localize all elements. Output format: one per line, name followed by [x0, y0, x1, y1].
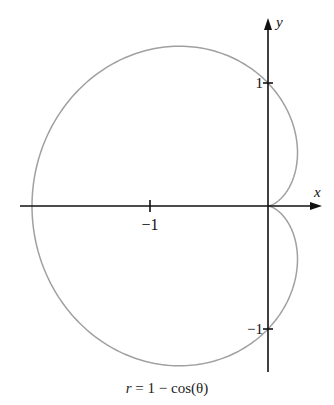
caption-rhs: 1 − cos(θ): [148, 380, 209, 396]
x-tick-label: −1: [141, 216, 158, 233]
x-axis-arrow-icon: [310, 202, 322, 210]
caption-equals: =: [135, 380, 143, 396]
y-tick-label: −1: [247, 321, 263, 337]
y-axis-arrow-icon: [264, 18, 272, 30]
y-tick-label: 1: [256, 75, 264, 91]
cardioid-plot: −11−1 x y: [0, 0, 334, 405]
y-axis-label: y: [274, 14, 283, 30]
x-axis-label: x: [313, 184, 321, 200]
caption-lhs: r: [126, 380, 132, 396]
chart-caption: r = 1 − cos(θ): [0, 380, 334, 397]
